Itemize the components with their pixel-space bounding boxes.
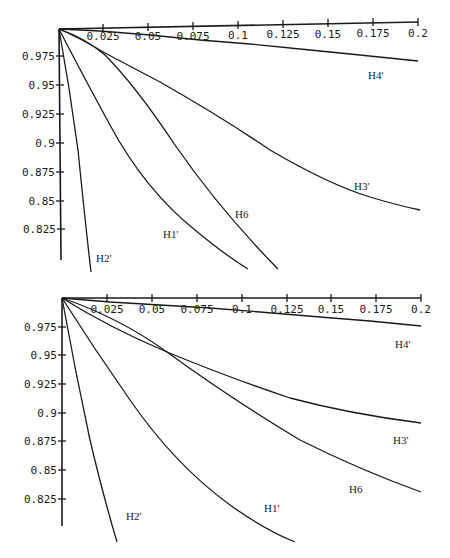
y-tick-label: 0.9 <box>37 407 57 420</box>
y-tick-label: 0.925 <box>24 378 57 391</box>
y-tick-label: 0.95 <box>29 79 56 92</box>
label-h3: H3' <box>354 180 369 192</box>
x-tick-label: 0.075 <box>176 30 209 43</box>
y-tick-label: 0.825 <box>23 223 56 236</box>
y-tick-label: 0.925 <box>22 108 55 121</box>
label-h3: H3' <box>393 434 408 446</box>
curve-h6 <box>62 298 421 492</box>
y-tick-label: 0.875 <box>22 166 55 179</box>
y-tick-label: 0.975 <box>24 321 57 334</box>
x-tick-label: 0.125 <box>266 28 299 41</box>
x-tick-label: 0.175 <box>356 27 389 40</box>
label-h2: H2' <box>126 510 141 522</box>
figure: 0.025 0.05 0.075 0.1 0.125 0.15 0.175 0.… <box>0 0 450 558</box>
chart-top: 0.025 0.05 0.075 0.1 0.125 0.15 0.175 0.… <box>22 18 428 272</box>
y-tick-label: 0.9 <box>35 137 55 150</box>
y-tick-labels: 0.975 0.95 0.925 0.9 0.875 0.85 0.825 <box>22 50 56 236</box>
x-tick-labels: 0.025 0.05 0.075 0.1 0.125 0.15 0.175 0.… <box>86 27 428 43</box>
y-tick-label: 0.975 <box>22 50 55 63</box>
y-tick-labels: 0.975 0.95 0.925 0.9 0.875 0.85 0.825 <box>24 321 57 506</box>
label-h2: H2' <box>96 252 111 264</box>
x-tick-label: 0.15 <box>315 28 342 41</box>
curve-h3 <box>62 298 421 423</box>
x-tick-label: 0.2 <box>408 27 428 40</box>
label-h6: H6 <box>349 483 363 495</box>
label-h6: H6 <box>235 208 249 220</box>
y-tick-label: 0.85 <box>31 464 58 477</box>
x-tick-label: 0.2 <box>411 303 431 316</box>
curve-h2 <box>59 29 91 272</box>
label-h4: H4' <box>368 69 383 81</box>
label-h1: H1' <box>264 502 279 514</box>
curve-h2 <box>62 298 117 542</box>
x-tick-label: 0.175 <box>359 303 392 316</box>
curve-h1 <box>62 298 295 542</box>
y-axis <box>59 29 61 260</box>
y-tick-label: 0.85 <box>29 195 56 208</box>
x-tick-label: 0.025 <box>90 303 123 316</box>
y-tick-label: 0.825 <box>24 493 57 506</box>
curve-h1 <box>59 29 248 269</box>
label-h1: H1' <box>163 228 178 240</box>
y-tick-label: 0.875 <box>24 435 57 448</box>
label-h4: H4' <box>395 338 410 350</box>
x-tick-label: 0.1 <box>228 29 248 42</box>
x-tick-labels: 0.025 0.05 0.075 0.1 0.125 0.15 0.175 0.… <box>90 303 431 316</box>
x-tick-label: 0.05 <box>135 30 162 43</box>
x-tick-label: 0.075 <box>180 303 213 316</box>
chart-bottom: 0.025 0.05 0.075 0.1 0.125 0.15 0.175 0.… <box>24 294 431 542</box>
x-tick-label: 0.15 <box>318 303 345 316</box>
y-tick-label: 0.95 <box>31 349 58 362</box>
